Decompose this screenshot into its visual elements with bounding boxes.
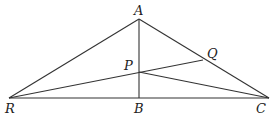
label-P: P [123,58,133,73]
label-B: B [133,101,144,116]
segment-AC [139,19,269,98]
label-C: C [256,101,266,116]
label-R: R [4,101,15,116]
label-Q: Q [207,46,218,61]
segment-PC [139,72,269,98]
segment-RA [9,19,139,98]
label-A: A [133,3,143,18]
geometry-diagram: A P Q R B C [0,0,279,119]
